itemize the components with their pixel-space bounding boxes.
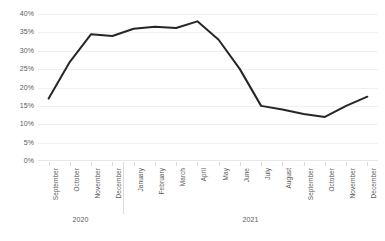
series-line-1 <box>49 21 368 117</box>
y-tick-label: 20% <box>0 84 34 92</box>
x-tick-label: May <box>222 168 229 180</box>
x-tick <box>346 162 347 166</box>
x-tick-label: February <box>158 168 165 194</box>
x-tick-label: March <box>179 168 186 186</box>
x-tick-label: August <box>285 168 292 189</box>
series-line-layer <box>38 14 378 161</box>
y-tick-label: 5% <box>0 139 34 147</box>
x-tick-label: December <box>115 168 122 198</box>
x-tick <box>176 162 177 166</box>
y-tick-label: 10% <box>0 120 34 128</box>
x-tick-label: April <box>200 168 207 181</box>
x-tick-label: September <box>307 168 314 200</box>
x-tick-label: June <box>243 168 250 182</box>
x-tick <box>197 162 198 166</box>
x-tick-label: October <box>328 168 335 191</box>
x-tick <box>91 162 92 166</box>
x-tick <box>367 162 368 166</box>
x-tick <box>282 162 283 166</box>
x-tick <box>155 162 156 166</box>
y-tick-label: 25% <box>0 65 34 73</box>
x-tick-label: October <box>73 168 80 191</box>
y-tick-label: 30% <box>0 47 34 55</box>
x-axis: SeptemberOctoberNovemberDecemberJanuaryF… <box>38 162 378 241</box>
x-tick-label: November <box>94 168 101 198</box>
x-tick <box>70 162 71 166</box>
year-group-label: 2020 <box>73 216 89 224</box>
y-tick-label: 40% <box>0 10 34 18</box>
x-tick <box>325 162 326 166</box>
year-group-label: 2021 <box>243 216 259 224</box>
x-tick <box>304 162 305 166</box>
x-tick-label: December <box>370 168 377 198</box>
y-tick-label: 0% <box>0 157 34 165</box>
line-chart: 0%5%10%15%20%25%30%35%40% SeptemberOctob… <box>0 0 385 241</box>
x-tick-label: September <box>52 168 59 200</box>
x-tick-label: July <box>264 168 271 180</box>
x-tick <box>240 162 241 166</box>
plot-area <box>38 14 378 161</box>
year-separator <box>123 162 124 214</box>
x-tick-label: January <box>137 168 144 191</box>
x-tick-label: November <box>349 168 356 198</box>
x-tick <box>261 162 262 166</box>
x-tick <box>134 162 135 166</box>
x-tick <box>112 162 113 166</box>
y-tick-label: 35% <box>0 28 34 36</box>
y-tick-label: 15% <box>0 102 34 110</box>
y-axis: 0%5%10%15%20%25%30%35%40% <box>0 0 34 175</box>
x-tick <box>219 162 220 166</box>
x-tick <box>49 162 50 166</box>
